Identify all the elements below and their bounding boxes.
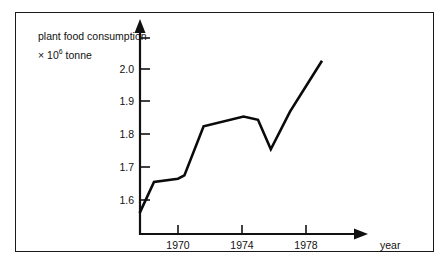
x-axis-title: year bbox=[380, 239, 401, 251]
y-tick-label-1-8: 1.8 bbox=[119, 128, 134, 140]
figure-frame: plant food consumption × 106 tonne 2.0 1… bbox=[15, 12, 434, 252]
y-tick-label-2-0: 2.0 bbox=[119, 63, 134, 75]
y-axis-tick-labels: 2.0 1.9 1.8 1.7 1.6 bbox=[119, 63, 134, 206]
x-axis-arrowhead bbox=[354, 229, 368, 240]
x-axis bbox=[140, 229, 368, 240]
x-tick-label-1974: 1974 bbox=[230, 239, 254, 251]
data-series-line bbox=[140, 61, 322, 213]
y-axis-ticks bbox=[140, 38, 150, 200]
x-tick-label-1978: 1978 bbox=[294, 239, 318, 251]
y-tick-label-1-6: 1.6 bbox=[119, 194, 134, 206]
y-tick-label-1-9: 1.9 bbox=[119, 95, 134, 107]
y-tick-label-1-7: 1.7 bbox=[119, 161, 134, 173]
line-chart: 2.0 1.9 1.8 1.7 1.6 1970 1974 1978 year bbox=[16, 13, 435, 253]
x-axis-ticks bbox=[178, 225, 306, 234]
y-axis-arrowhead bbox=[135, 19, 146, 33]
x-axis-tick-labels: 1970 1974 1978 bbox=[166, 239, 318, 251]
x-tick-label-1970: 1970 bbox=[166, 239, 190, 251]
